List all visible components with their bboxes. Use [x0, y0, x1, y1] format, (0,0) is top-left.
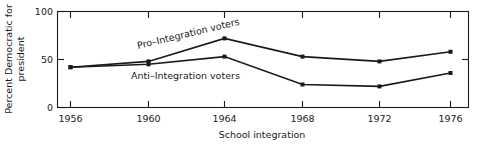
x-tick-label-1956: 1956 — [58, 113, 82, 124]
data-point-pro-1964 — [223, 36, 227, 40]
data-point-anti-1960 — [147, 62, 151, 66]
line-chart: 0 50 100 1956 1960 1964 1968 1972 1976 S… — [0, 0, 481, 144]
x-tick-label-1964: 1964 — [212, 113, 236, 124]
x-tick-label-1976: 1976 — [438, 113, 462, 124]
y-tick-label-100: 100 — [35, 6, 53, 17]
data-point-pro-1968 — [301, 55, 305, 59]
data-point-pro-1972 — [378, 59, 382, 63]
y-axis-title-line1: Percent Democratic for — [3, 4, 14, 114]
data-point-anti-1956 — [69, 65, 73, 69]
y-axis-title-line2: president — [15, 36, 26, 81]
series-line-anti-integration — [71, 57, 451, 87]
data-point-pro-1976 — [449, 50, 453, 54]
x-tick-label-1972: 1972 — [367, 113, 391, 124]
x-axis-title: School integration — [219, 129, 306, 140]
chart-figure: 0 50 100 1956 1960 1964 1968 1972 1976 S… — [0, 0, 481, 144]
series-line-pro-integration — [71, 38, 451, 67]
x-tick-label-1968: 1968 — [290, 113, 314, 124]
series-annotation-pro-integration: Pro–Integration voters — [136, 16, 241, 51]
y-tick-label-50: 50 — [41, 54, 53, 65]
series-annotation-anti-integration: Anti–Integration voters — [131, 70, 240, 81]
data-point-anti-1972 — [378, 84, 382, 88]
x-tick-label-1960: 1960 — [136, 113, 160, 124]
data-point-anti-1964 — [223, 55, 227, 59]
plot-frame — [58, 12, 469, 108]
y-tick-label-0: 0 — [47, 102, 53, 113]
data-point-anti-1968 — [301, 83, 305, 87]
data-point-anti-1976 — [449, 71, 453, 75]
